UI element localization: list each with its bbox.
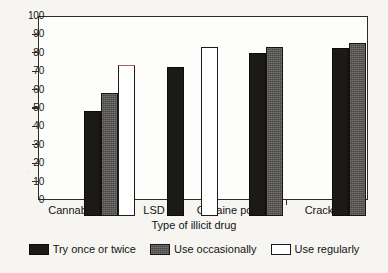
bar bbox=[101, 93, 118, 216]
legend-item-try-once-or-twice: Try once or twice bbox=[29, 243, 136, 255]
legend-item-use-regularly: Use regularly bbox=[271, 243, 360, 255]
bar bbox=[332, 48, 349, 216]
bar bbox=[84, 111, 101, 216]
legend-label: Use regularly bbox=[295, 243, 360, 255]
white-outlined-swatch-icon bbox=[271, 244, 291, 255]
bar bbox=[349, 43, 366, 216]
chart-legend: Try once or twice Use occasionally Use r… bbox=[0, 243, 388, 255]
x-axis-title: Type of illicit drug bbox=[0, 219, 388, 231]
black-filled-swatch-icon bbox=[29, 244, 49, 255]
x-axis-tick-mark bbox=[286, 200, 287, 205]
legend-item-use-occasionally: Use occasionally bbox=[150, 243, 257, 255]
bar-chart-figure: 0102030405060708090100 CannabisLSDCocain… bbox=[0, 0, 388, 273]
legend-label: Use occasionally bbox=[174, 243, 257, 255]
gray-filled-swatch-icon bbox=[150, 244, 170, 255]
bar bbox=[266, 47, 283, 216]
legend-label: Try once or twice bbox=[53, 243, 136, 255]
bar bbox=[249, 53, 266, 216]
bar bbox=[118, 65, 135, 216]
plot-area bbox=[38, 16, 368, 200]
bar bbox=[167, 67, 184, 216]
bar bbox=[201, 47, 218, 216]
